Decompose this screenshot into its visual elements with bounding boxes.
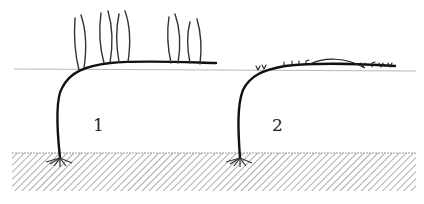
soil-ground	[12, 153, 416, 191]
figure-2-plant	[226, 59, 395, 167]
figure-2-label: 2	[272, 117, 283, 134]
figure-1-plant	[46, 11, 216, 167]
figure-2-stem	[238, 64, 395, 158]
horizon-line	[14, 69, 416, 71]
plant-diagram	[0, 0, 424, 204]
figure-1-label: 1	[93, 117, 104, 134]
figure-1-stem	[57, 61, 216, 158]
